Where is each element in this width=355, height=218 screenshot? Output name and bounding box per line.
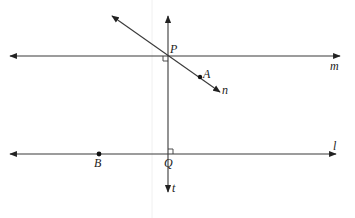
label-b: B	[94, 156, 102, 170]
label-l: l	[333, 139, 337, 153]
label-n: n	[222, 83, 228, 97]
label-m: m	[330, 59, 339, 73]
label-p: P	[169, 42, 178, 56]
label-t: t	[172, 181, 176, 195]
point-a	[198, 75, 202, 79]
label-q: Q	[164, 156, 173, 170]
right-angle-mark-p	[163, 56, 168, 61]
label-a: A	[202, 67, 211, 81]
right-angle-mark-q	[168, 149, 173, 154]
geometry-diagram: P Q A B m l t n	[0, 0, 355, 218]
